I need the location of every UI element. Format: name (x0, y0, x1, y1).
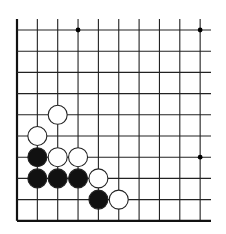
white-stone[interactable] (48, 105, 67, 124)
black-stone[interactable] (69, 169, 88, 188)
black-stone[interactable] (28, 169, 47, 188)
white-stone[interactable] (28, 127, 47, 146)
black-stone[interactable] (28, 148, 47, 167)
white-stone[interactable] (48, 148, 67, 167)
star-point-icon (198, 28, 203, 33)
black-stone[interactable] (48, 169, 67, 188)
white-stone[interactable] (69, 148, 88, 167)
white-stone[interactable] (89, 169, 108, 188)
star-point-icon (198, 155, 203, 160)
star-point-icon (76, 28, 81, 33)
white-stone[interactable] (109, 190, 128, 209)
go-board[interactable] (0, 0, 226, 234)
board-grid (17, 19, 211, 221)
black-stone[interactable] (89, 190, 108, 209)
